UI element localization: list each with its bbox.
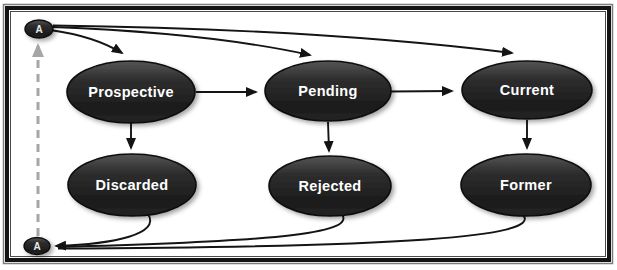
- state-rejected: Rejected: [269, 156, 391, 216]
- state-flow-diagram: Prospective Pending Current Discarded Re…: [0, 0, 617, 270]
- state-prospective-label: Prospective: [88, 84, 174, 100]
- state-former: Former: [461, 154, 591, 216]
- connector-a-bottom-label: A: [33, 241, 40, 252]
- connector-a-top-label: A: [35, 24, 42, 35]
- edge-pending-to-current: [391, 91, 452, 92]
- diagram-canvas: Prospective Pending Current Discarded Re…: [0, 0, 617, 270]
- connector-a-top: A: [25, 20, 53, 38]
- state-prospective: Prospective: [67, 61, 195, 123]
- state-current-label: Current: [500, 82, 554, 98]
- state-former-label: Former: [500, 177, 552, 193]
- state-pending: Pending: [265, 61, 391, 121]
- connector-a-bottom: A: [24, 238, 50, 255]
- state-discarded: Discarded: [68, 154, 196, 216]
- edge-pending-to-rejected: [328, 122, 329, 151]
- state-current: Current: [462, 61, 592, 119]
- state-rejected-label: Rejected: [299, 178, 362, 194]
- state-discarded-label: Discarded: [96, 177, 169, 193]
- state-pending-label: Pending: [298, 83, 357, 99]
